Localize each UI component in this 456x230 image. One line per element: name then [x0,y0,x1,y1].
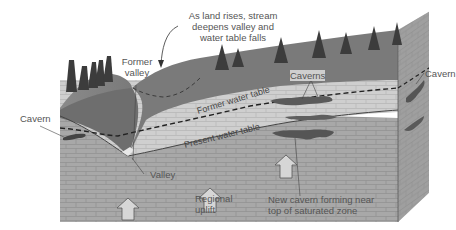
former-valley-line2: valley [118,67,156,78]
regional-uplift-line1: Regional [195,193,233,204]
new-cavern-label: New cavern forming near top of saturated… [268,194,374,216]
new-cavern-line2: top of saturated zone [268,205,374,216]
annotation-top: As land rises, stream deepens valley and… [178,10,288,43]
valley-label: Valley [150,169,175,180]
leader-top-arrow [161,26,178,64]
cavern-right-text: Cavern [395,68,456,79]
caverns-label: Caverns [290,70,325,81]
regional-uplift-line2: uplift [195,204,233,215]
regional-uplift-label: Regional uplift [195,193,233,215]
annotation-top-line1: As land rises, stream [178,10,288,21]
annotation-top-line3: water table falls [178,32,288,43]
new-cavern-line1: New cavern forming near [268,194,374,205]
cavern-left-label: Cavern [20,113,51,124]
former-valley-label: Former valley [118,56,156,78]
former-valley-line1: Former [118,56,156,67]
cavern-right-label: Cavern [395,68,456,79]
annotation-top-line2: deepens valley and [178,21,288,32]
